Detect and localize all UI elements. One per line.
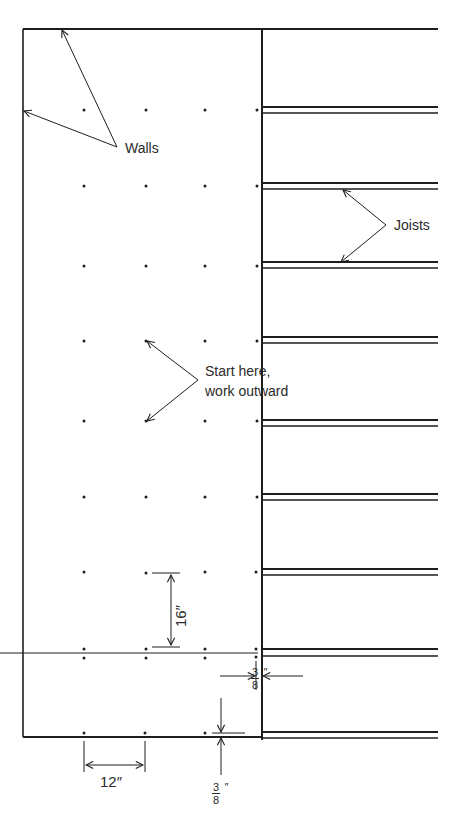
walls-label: Walls (125, 140, 159, 157)
joist (262, 494, 438, 500)
gap-right-denominator: 8 (251, 679, 259, 691)
gap-right-unit: ″ (263, 666, 267, 678)
joists-label: Joists (394, 217, 430, 234)
walls-leader-top (62, 30, 117, 147)
gap-bottom-unit: ″ (224, 781, 228, 793)
nail-row (83, 185, 259, 188)
gap-bottom-numerator: 3 (212, 781, 220, 794)
gap-right-fraction: 3 8 ″ (251, 666, 259, 691)
nail-row (83, 648, 258, 651)
joist (262, 569, 438, 575)
nail-row (83, 420, 259, 423)
nail-row (83, 496, 259, 499)
drywall-layout-diagram (0, 0, 461, 814)
nail-row (83, 109, 259, 112)
start-here-label-line1: Start here, (205, 363, 270, 380)
gap-right-numerator: 3 (251, 666, 259, 679)
joist (262, 649, 438, 656)
joist (262, 183, 438, 189)
dimension-12-inch (84, 741, 145, 772)
nail-row (83, 732, 207, 735)
joists-leader-top (343, 190, 386, 225)
nail-row (83, 656, 258, 660)
start-leader-bottom (147, 380, 198, 421)
joist (262, 337, 438, 343)
gap-bottom-denominator: 8 (212, 794, 220, 806)
joist (262, 732, 438, 738)
gap-bottom-fraction: 3 8 ″ (212, 781, 220, 806)
dimension-12-label: 12″ (100, 773, 122, 790)
nail-row (83, 340, 259, 343)
dimension-16-label: 16″ (172, 605, 189, 627)
start-here-label-line2: work outward (205, 383, 288, 400)
joists-leader-bottom (341, 225, 386, 262)
joists (262, 107, 438, 738)
joist (262, 262, 438, 268)
joist (262, 107, 438, 113)
joist (262, 420, 438, 426)
nail-row (83, 265, 259, 268)
start-leader-top (147, 341, 198, 380)
